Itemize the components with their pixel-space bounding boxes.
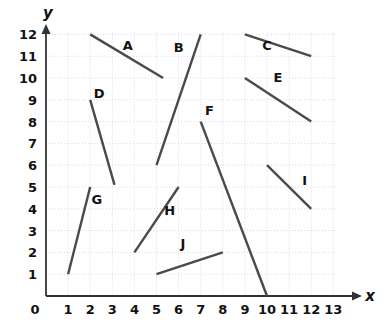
y-tick-label: 3 xyxy=(28,224,37,239)
x-tick-label: 3 xyxy=(108,302,117,317)
segment-f xyxy=(201,122,267,296)
x-tick-label: 11 xyxy=(280,302,298,317)
y-tick-label: 1 xyxy=(28,267,37,282)
segment-label-f: F xyxy=(205,103,214,118)
y-tick-label: 2 xyxy=(28,245,37,260)
x-tick-label: 9 xyxy=(240,302,249,317)
grid-lines xyxy=(46,32,335,296)
x-axis-label: x xyxy=(364,287,376,305)
x-axis-arrow xyxy=(352,292,362,301)
x-tick-label: 6 xyxy=(174,302,183,317)
x-tick-label: 0 xyxy=(30,302,39,317)
x-tick-label: 2 xyxy=(86,302,95,317)
segment-label-g: G xyxy=(91,192,102,207)
x-tick-label: 10 xyxy=(258,302,276,317)
x-tick-label: 8 xyxy=(218,302,227,317)
segment-labels: ABCDEFGHIJ xyxy=(91,38,306,251)
segment-label-i: I xyxy=(302,173,307,188)
y-tick-label: 12 xyxy=(19,27,37,42)
y-tick-label: 5 xyxy=(28,180,37,195)
y-tick-label: 10 xyxy=(19,71,37,86)
segment-label-c: C xyxy=(262,38,272,53)
segment-d xyxy=(90,100,114,185)
segment-j xyxy=(157,252,223,274)
y-tick-label: 6 xyxy=(28,158,37,173)
x-tick-label: 13 xyxy=(324,302,342,317)
y-tick-label: 7 xyxy=(28,136,37,151)
segment-label-j: J xyxy=(180,236,186,251)
segment-label-h: H xyxy=(164,203,175,218)
y-axis-label: y xyxy=(43,4,54,22)
segment-label-b: B xyxy=(174,40,184,55)
y-tick-label: 4 xyxy=(28,202,37,217)
x-tick-label: 12 xyxy=(302,302,320,317)
line-segments-plot: 012345678910111213123456789101112 ABCDEF… xyxy=(0,0,386,328)
segment-label-e: E xyxy=(274,70,283,85)
x-tick-label: 1 xyxy=(64,302,73,317)
segment-label-a: A xyxy=(123,38,133,53)
y-tick-label: 9 xyxy=(28,93,37,108)
y-axis-arrow xyxy=(42,24,51,34)
x-tick-label: 4 xyxy=(130,302,139,317)
x-tick-label: 7 xyxy=(196,302,205,317)
segment-label-d: D xyxy=(94,86,105,101)
segment-g xyxy=(68,187,90,274)
coordinate-plane-figure: 012345678910111213123456789101112 ABCDEF… xyxy=(0,0,386,328)
y-tick-label: 8 xyxy=(28,115,37,130)
segment-c xyxy=(245,34,311,56)
y-tick-label: 11 xyxy=(19,49,37,64)
x-tick-label: 5 xyxy=(152,302,161,317)
